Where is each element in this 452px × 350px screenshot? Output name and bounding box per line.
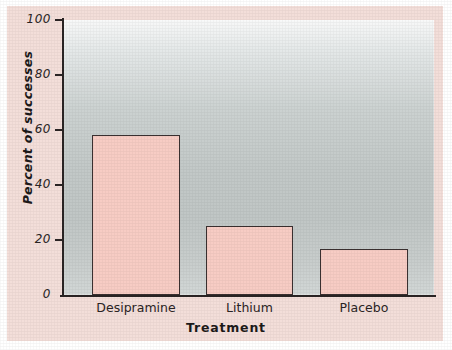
page-edge-bottom — [0, 341, 452, 350]
y-tick-40 — [55, 184, 62, 186]
y-tick-20 — [55, 239, 62, 241]
y-tick-60 — [55, 129, 62, 131]
y-tick-label-0: 0 — [5, 287, 51, 301]
page-edge-left — [0, 0, 7, 350]
y-tick-label-20: 20 — [5, 232, 51, 246]
x-axis-line — [60, 295, 436, 297]
y-tick-80 — [55, 74, 62, 76]
bar-desipramine — [92, 135, 180, 295]
page-edge-right — [443, 0, 452, 350]
y-tick-label-100: 100 — [5, 12, 51, 26]
bar-chart-figure: 100 80 60 40 20 0 Desipramine Lithium Pl… — [0, 0, 452, 350]
x-axis-title: Treatment — [0, 320, 452, 335]
bar-placebo — [320, 249, 408, 295]
bar-lithium — [206, 226, 293, 295]
y-tick-100 — [55, 19, 62, 21]
page-edge-top — [0, 0, 452, 6]
y-axis-title: Percent of successes — [20, 33, 35, 223]
x-category-label-placebo: Placebo — [290, 300, 438, 315]
y-axis-line — [62, 18, 64, 297]
